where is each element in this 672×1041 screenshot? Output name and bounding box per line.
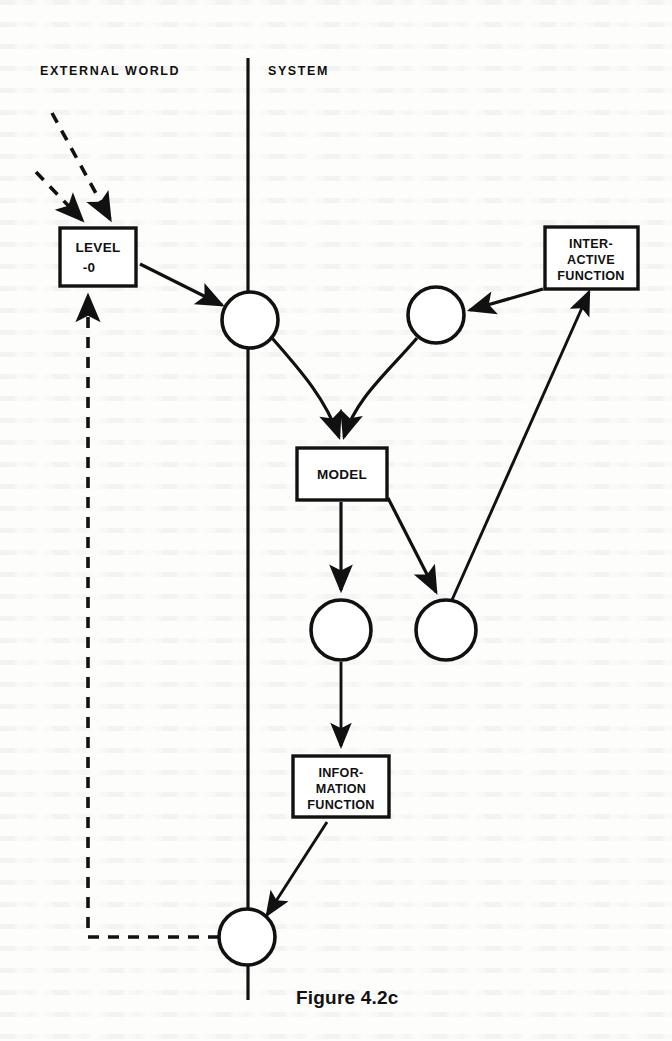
model-box: MODEL [297, 448, 387, 500]
interactive-function-label-line-1: INTER- [569, 237, 613, 251]
curve-input-junction-to-model [272, 338, 339, 437]
figure-page: EXTERNAL WORLD SYSTEM LEVEL -0 INTER- AC… [0, 0, 672, 1041]
figure-caption: Figure 4.2c [296, 987, 399, 1008]
junction-node-interactive [408, 287, 464, 343]
junction-node-input [222, 292, 278, 348]
arrow-interactive-function-to-junction [470, 289, 543, 310]
information-function-box: INFOR- MATION FUNCTION [293, 756, 389, 817]
interactive-function-label-line-2: ACTIVE [567, 253, 615, 267]
curve-interactive-junction-to-model [344, 338, 417, 437]
level-0-label-line-1: LEVEL [75, 240, 120, 255]
information-function-label-line-2: MATION [316, 782, 367, 796]
arrow-feedback-junction-to-interactive-function [452, 292, 589, 600]
level-0-label-line-2: -0 [83, 260, 96, 275]
interactive-function-box: INTER- ACTIVE FUNCTION [545, 227, 638, 289]
information-function-label-line-3: FUNCTION [307, 798, 374, 812]
dashed-input-arrow-2 [52, 113, 110, 219]
dashed-feedback-to-level0 [88, 296, 219, 937]
level-0-box-outline [60, 228, 136, 286]
arrow-information-function-to-output-junction [267, 822, 327, 915]
junction-node-feedback-up [416, 600, 476, 660]
system-model-diagram: EXTERNAL WORLD SYSTEM LEVEL -0 INTER- AC… [0, 0, 672, 1041]
information-function-label-line-1: INFOR- [318, 766, 363, 780]
level-0-box: LEVEL -0 [60, 228, 136, 286]
region-label-system: SYSTEM [268, 64, 329, 78]
region-label-external-world: EXTERNAL WORLD [40, 64, 180, 78]
arrow-model-to-feedback-junction [388, 498, 436, 592]
dashed-input-arrow-1 [36, 172, 82, 220]
model-label: MODEL [317, 467, 367, 482]
junction-node-model-output [311, 600, 371, 660]
arrow-level0-to-input-junction [140, 264, 222, 305]
junction-node-output [219, 909, 275, 965]
interactive-function-label-line-3: FUNCTION [557, 269, 624, 283]
